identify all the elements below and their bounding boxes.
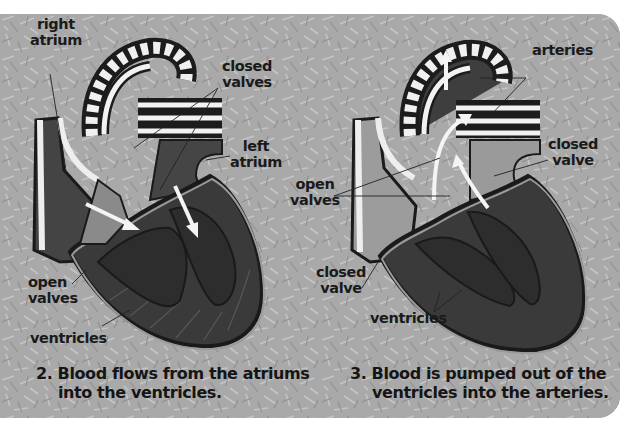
label-line: valves <box>290 192 340 208</box>
heart-diagram-pumping <box>352 50 586 353</box>
caption-line-2: into the ventricles. <box>36 383 309 402</box>
label-open-valves-3: open valves <box>290 176 340 208</box>
heart-illustrations <box>0 14 620 418</box>
caption-line-1: Blood is pumped out of the <box>372 364 607 383</box>
heart-diagram-panel: right atrium closed valves left atrium o… <box>0 14 620 418</box>
label-closed-valve-bottom: closed valve <box>316 264 366 296</box>
caption-number: 3. <box>350 364 366 383</box>
label-ventricles-2: ventricles <box>30 330 107 346</box>
label-line: atrium <box>230 154 282 170</box>
label-line: valve <box>320 280 362 296</box>
label-line: closed <box>316 264 366 280</box>
caption-line-2: ventricles into the arteries. <box>350 383 609 402</box>
label-closed-valves: closed valves <box>222 58 272 90</box>
label-arteries: arteries <box>532 42 593 58</box>
caption-step-2: 2. Blood flows from the atriums into the… <box>36 364 309 402</box>
label-line: left <box>243 138 269 154</box>
label-left-atrium: left atrium <box>230 138 282 170</box>
label-line: open <box>28 274 67 290</box>
label-right-atrium: right atrium <box>30 16 82 48</box>
label-line: right <box>37 16 75 32</box>
label-line: closed <box>222 58 272 74</box>
label-line: open <box>295 176 334 192</box>
label-closed-valve-top: closed valve <box>548 136 598 168</box>
label-line: valves <box>222 74 272 90</box>
caption-step-3: 3. Blood is pumped out of the ventricles… <box>350 364 609 402</box>
label-line: valves <box>28 290 78 306</box>
label-ventricles-3: ventricles <box>370 310 447 326</box>
label-open-valves-2: open valves <box>28 274 78 306</box>
caption-number: 2. <box>36 364 52 383</box>
label-line: atrium <box>30 32 82 48</box>
label-line: closed <box>548 136 598 152</box>
label-line: valve <box>552 152 594 168</box>
caption-line-1: Blood flows from the atriums <box>58 364 310 383</box>
